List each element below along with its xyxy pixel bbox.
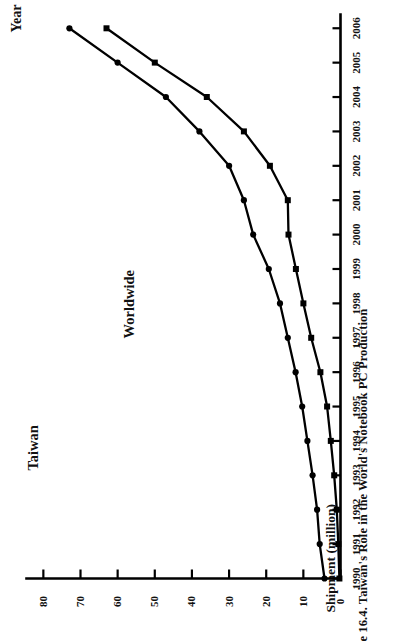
y-tick-label: 80	[36, 586, 48, 616]
data-point-worldwide	[250, 231, 256, 237]
data-point-taiwan	[284, 197, 290, 203]
data-point-taiwan	[285, 231, 291, 237]
data-point-taiwan	[103, 25, 109, 31]
data-point-worldwide	[265, 265, 271, 271]
y-tick-label: 10	[296, 586, 308, 616]
data-point-taiwan	[266, 162, 272, 168]
data-point-worldwide	[299, 403, 305, 409]
data-point-taiwan	[317, 369, 323, 375]
y-tick-label: 50	[147, 586, 159, 616]
y-tick-label: 70	[73, 586, 85, 616]
data-point-worldwide	[240, 197, 246, 203]
data-point-taiwan	[324, 403, 330, 409]
x-tick-label: 2006	[349, 8, 361, 48]
data-point-taiwan	[333, 506, 339, 512]
data-point-taiwan	[335, 541, 341, 547]
data-point-taiwan	[300, 300, 306, 306]
series-line-worldwide	[69, 28, 324, 578]
data-point-taiwan	[292, 266, 298, 272]
data-point-taiwan	[240, 128, 246, 134]
data-point-taiwan	[327, 437, 333, 443]
data-point-worldwide	[276, 300, 282, 306]
data-point-worldwide	[284, 334, 290, 340]
data-point-worldwide	[304, 437, 310, 443]
data-point-taiwan	[308, 334, 314, 340]
data-point-worldwide	[309, 472, 315, 478]
y-tick-label: 40	[184, 586, 196, 616]
data-point-worldwide	[316, 541, 322, 547]
data-point-taiwan	[336, 575, 342, 581]
data-point-worldwide	[314, 506, 320, 512]
y-tick-label: 0	[333, 586, 345, 616]
data-point-taiwan	[331, 472, 337, 478]
tick-marks-group	[43, 28, 340, 578]
series-group	[66, 25, 342, 581]
data-point-taiwan	[203, 94, 209, 100]
y-tick-label: 30	[222, 586, 234, 616]
data-point-worldwide	[292, 369, 298, 375]
data-point-worldwide	[66, 25, 72, 31]
y-tick-label: 60	[110, 586, 122, 616]
y-tick-label: 20	[259, 586, 271, 616]
axes-group	[26, 14, 340, 578]
data-point-taiwan	[151, 59, 157, 65]
data-point-worldwide	[321, 575, 327, 581]
